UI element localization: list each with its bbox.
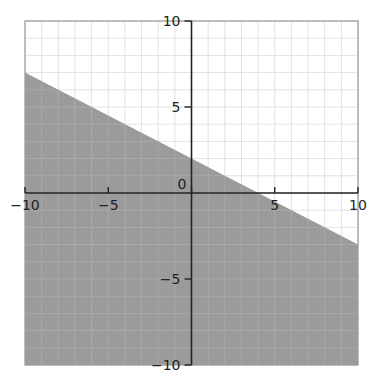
inequality-graph: −10−50510−10−5510 bbox=[0, 0, 377, 387]
x-tick-label: −10 bbox=[10, 197, 40, 213]
x-tick-label: −5 bbox=[98, 197, 119, 213]
x-tick-label: 10 bbox=[349, 197, 367, 213]
x-tick-label: 5 bbox=[270, 197, 279, 213]
y-tick-label: −5 bbox=[160, 271, 181, 287]
y-tick-label: 5 bbox=[172, 99, 181, 115]
x-tick-label: 0 bbox=[178, 176, 187, 192]
y-tick-label: 10 bbox=[163, 13, 181, 29]
y-tick-label: −10 bbox=[151, 357, 181, 373]
